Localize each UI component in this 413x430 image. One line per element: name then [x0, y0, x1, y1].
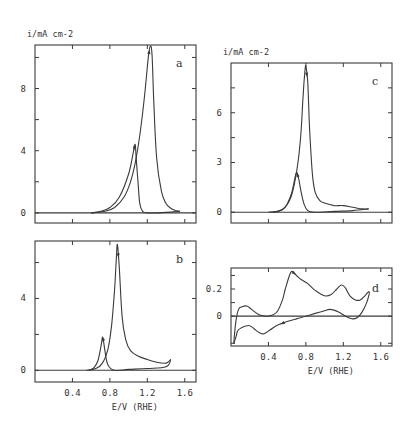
y-tick-label-c: 3: [217, 157, 222, 167]
y-axis-label-a: i/mA cm-2: [27, 29, 73, 39]
y-tick-label-b: 0: [21, 365, 26, 375]
x-tick-label-d: 1.6: [373, 352, 389, 362]
y-tick-label-a: 0: [21, 208, 26, 218]
series-line-a-cathodic: [91, 144, 180, 213]
x-tick-label-b: 0.4: [64, 388, 80, 398]
x-tick-label-d: 1.2: [335, 352, 351, 362]
sweep-direction-arrow-c: [297, 173, 300, 178]
x-axis-label-b: E/V (RHE): [112, 402, 158, 412]
series-line-d-anodic: [234, 271, 370, 343]
plot-frame-d: [231, 268, 392, 346]
x-tick-label-b: 0.8: [102, 388, 118, 398]
y-tick-label-d: 0.2: [206, 284, 222, 294]
panel-label-b: b: [176, 253, 183, 266]
panel-label-a: a: [176, 57, 183, 70]
y-tick-label-c: 0: [217, 207, 222, 217]
panel-label-d: d: [372, 282, 379, 295]
y-tick-label-a: 4: [21, 146, 26, 156]
x-tick-label-b: 1.6: [177, 388, 193, 398]
x-tick-label-b: 1.2: [139, 388, 155, 398]
x-tick-label-d: 0.4: [260, 352, 276, 362]
plot-frame-b: [35, 241, 196, 382]
series-line-c-cathodic: [273, 172, 369, 212]
series-line-d-cathodic: [234, 293, 370, 343]
y-tick-label-c: 6: [217, 108, 222, 118]
y-tick-label-b: 4: [21, 293, 26, 303]
x-axis-label-d: E/V (RHE): [308, 366, 354, 376]
figure: 048ai/mA cm-2 0.40.81.21.604bE/V (RHE) 0…: [0, 0, 413, 430]
y-axis-label-c: i/mA cm-2: [223, 47, 269, 57]
panel-a: 048ai/mA cm-2: [21, 29, 196, 223]
series-line-b-anodic: [87, 244, 171, 370]
y-tick-label-d: 0: [217, 311, 222, 321]
panel-label-c: c: [372, 75, 378, 88]
panel-c: 036ci/mA cm-2: [217, 47, 392, 223]
panel-d: 0.40.81.21.600.2dE/V (RHE): [206, 268, 392, 376]
series-line-b-cathodic: [89, 337, 170, 370]
y-tick-label-a: 8: [21, 84, 26, 94]
plot-frame-a: [35, 45, 196, 223]
panel-b: 0.40.81.21.604bE/V (RHE): [21, 241, 196, 412]
sweep-direction-arrow-d: [280, 321, 285, 324]
series-line-a-anodic: [91, 46, 180, 213]
series-line-c-anodic: [268, 65, 368, 212]
plot-frame-c: [231, 63, 392, 223]
x-tick-label-d: 0.8: [298, 352, 314, 362]
